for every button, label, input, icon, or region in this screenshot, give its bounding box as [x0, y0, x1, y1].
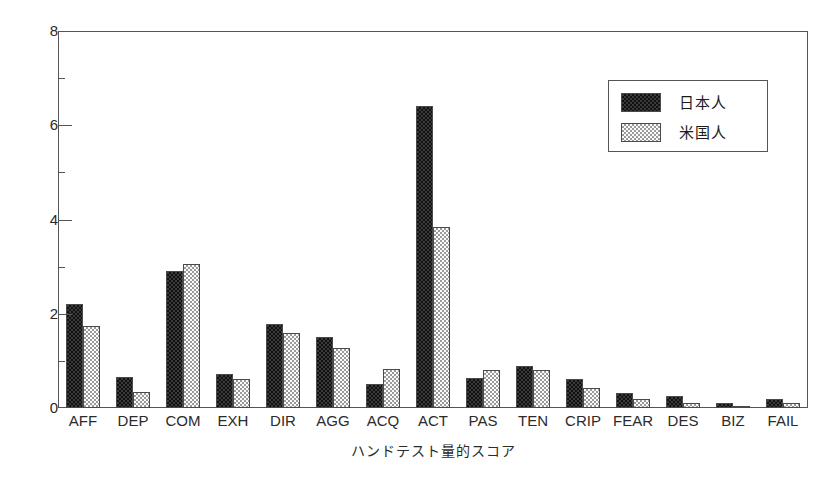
bar	[783, 403, 800, 408]
y-tick-mark-major	[58, 125, 72, 126]
bar	[266, 324, 283, 408]
bar	[633, 399, 650, 408]
bar	[466, 378, 483, 408]
bar	[183, 264, 200, 408]
legend-swatch-light-icon	[621, 123, 661, 142]
y-tick-mark-major	[58, 314, 72, 315]
legend: 日本人 米国人	[608, 80, 768, 152]
bar-group	[266, 31, 300, 408]
x-tick-label: FAIL	[758, 412, 808, 430]
bar	[483, 370, 500, 408]
legend-label-series-2: 米国人	[679, 123, 727, 142]
bar	[433, 227, 450, 408]
y-tick-mark-minor	[58, 78, 65, 79]
bar-group	[566, 31, 600, 408]
bar-group	[416, 31, 450, 408]
bar	[416, 106, 433, 408]
x-tick-label: DES	[658, 412, 708, 430]
bar	[583, 388, 600, 408]
y-tick-mark-minor	[58, 172, 65, 173]
x-tick-label: BIZ	[708, 412, 758, 430]
bar-group	[316, 31, 350, 408]
x-tick-label: CRIP	[558, 412, 608, 430]
bar	[733, 406, 750, 408]
y-tick-label: 6	[30, 117, 58, 132]
x-tick-label: AGG	[308, 412, 358, 430]
y-tick-mark-minor	[58, 361, 65, 362]
bar	[666, 396, 683, 408]
x-tick-label: TEN	[508, 412, 558, 430]
legend-label-series-1: 日本人	[679, 93, 727, 112]
bar-group	[516, 31, 550, 408]
x-tick-label: DIR	[258, 412, 308, 430]
bar	[83, 326, 100, 408]
legend-item-series-1: 日本人	[621, 91, 727, 113]
bar	[516, 366, 533, 408]
bar-group	[466, 31, 500, 408]
bar-group	[366, 31, 400, 408]
x-tick-label: PAS	[458, 412, 508, 430]
legend-item-series-2: 米国人	[621, 121, 727, 143]
x-tick-label: ACT	[408, 412, 458, 430]
y-tick-mark-major	[58, 220, 72, 221]
bar	[383, 369, 400, 408]
bar-group	[166, 31, 200, 408]
y-tick-label: 4	[30, 212, 58, 227]
bar	[233, 379, 250, 408]
bar	[616, 393, 633, 408]
legend-swatch-dark-icon	[621, 93, 661, 112]
x-tick-label: EXH	[208, 412, 258, 430]
x-tick-label: AFF	[58, 412, 108, 430]
y-tick-label: 2	[30, 306, 58, 321]
bar	[533, 370, 550, 408]
y-tick-label: 0	[30, 400, 58, 415]
bar	[766, 399, 783, 408]
x-tick-label: COM	[158, 412, 208, 430]
bar	[66, 304, 83, 408]
bar-group	[766, 31, 800, 408]
bar-chart-figure: 02468 AFFDEPCOMEXHDIRAGGACQACTPASTENCRIP…	[0, 0, 832, 478]
bar	[166, 271, 183, 408]
x-tick-label: DEP	[108, 412, 158, 430]
x-axis-tick-labels: AFFDEPCOMEXHDIRAGGACQACTPASTENCRIPFEARDE…	[58, 412, 808, 436]
bar	[133, 392, 150, 408]
bar	[366, 384, 383, 409]
y-axis: 02468	[0, 0, 58, 478]
bar	[566, 379, 583, 408]
bar	[316, 337, 333, 408]
x-tick-label: FEAR	[608, 412, 658, 430]
bar	[283, 333, 300, 408]
x-axis-title: ハンドテスト量的スコア	[58, 440, 808, 460]
bar	[216, 374, 233, 408]
y-tick-label: 8	[30, 23, 58, 38]
bar-group	[116, 31, 150, 408]
bar-group	[216, 31, 250, 408]
y-tick-mark-minor	[58, 267, 65, 268]
x-tick-label: ACQ	[358, 412, 408, 430]
bar	[116, 377, 133, 408]
bar	[683, 403, 700, 408]
bar	[333, 348, 350, 408]
bar	[716, 403, 733, 408]
